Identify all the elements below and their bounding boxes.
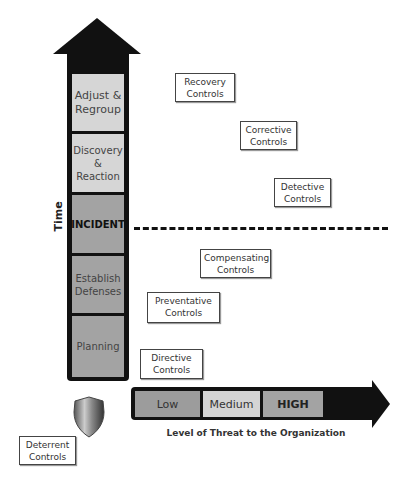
phase-adjust-regroup: Adjust & Regroup — [72, 74, 124, 131]
time-arrow-head — [53, 18, 141, 54]
phase-label: Establish Defenses — [72, 272, 124, 298]
threat-level-low: Low — [135, 391, 200, 417]
phase-planning: Planning — [72, 316, 124, 377]
control-recovery: Recovery Controls — [175, 73, 235, 102]
phase-establish-defenses: Establish Defenses — [72, 256, 124, 313]
x-axis-label: Level of Threat to the Organization — [131, 428, 381, 438]
phase-label: Adjust & Regroup — [72, 89, 124, 117]
control-deterrent: Deterrent Controls — [19, 436, 76, 465]
phase-incident: INCIDENT — [72, 195, 124, 253]
phase-discovery-reaction: Discovery & Reaction — [72, 134, 124, 192]
incident-dashed-line — [134, 227, 388, 230]
shield-icon — [72, 396, 106, 438]
control-corrective: Corrective Controls — [240, 121, 297, 150]
phase-label: Discovery & Reaction — [72, 144, 124, 183]
y-axis-label: Time — [52, 197, 65, 237]
control-preventative: Preventative Controls — [147, 292, 220, 323]
phase-label: Planning — [76, 340, 119, 353]
control-directive: Directive Controls — [140, 349, 203, 379]
phase-label: INCIDENT — [71, 218, 124, 231]
control-detective: Detective Controls — [274, 178, 331, 207]
threat-level-medium: Medium — [203, 391, 260, 417]
threat-arrow-head — [372, 380, 390, 428]
threat-level-high: HIGH — [263, 391, 323, 417]
control-compensating: Compensating Controls — [200, 249, 271, 278]
